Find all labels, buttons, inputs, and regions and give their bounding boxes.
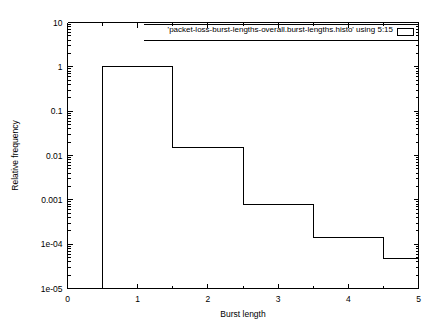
x-tick-label-4: 4 xyxy=(346,294,351,304)
x-tick-label-1: 1 xyxy=(135,294,140,304)
histogram-bar-4 xyxy=(313,238,383,289)
x-tick-label-2: 2 xyxy=(206,294,211,304)
y-axis-title: Relative frequency xyxy=(10,120,20,191)
chart-svg: 1010.10.010.0011e-041e-05012345Burst len… xyxy=(0,0,439,329)
y-tick-label-4: 0.001 xyxy=(41,195,63,205)
histogram-bar-3 xyxy=(243,204,313,288)
legend-entry-label-0: 'packet-loss-burst-lengths-overall.burst… xyxy=(168,25,394,34)
y-tick-label-6: 1e-05 xyxy=(41,284,63,294)
x-tick-label-3: 3 xyxy=(276,294,281,304)
y-tick-label-3: 0.01 xyxy=(46,151,63,161)
histogram-bar-5 xyxy=(383,258,418,288)
x-tick-label-5: 5 xyxy=(416,294,421,304)
histogram-bar-2 xyxy=(173,148,243,289)
histogram-bar-1 xyxy=(103,67,173,289)
y-tick-label-0: 10 xyxy=(53,18,63,28)
gnuplot-chart-canvas: 1010.10.010.0011e-041e-05012345Burst len… xyxy=(0,0,439,329)
histogram-series-outline xyxy=(103,67,419,289)
y-tick-label-2: 0.1 xyxy=(51,106,63,116)
x-axis-title: Burst length xyxy=(220,309,266,319)
y-tick-label-1: 1 xyxy=(58,62,63,72)
x-tick-label-0: 0 xyxy=(65,294,70,304)
legend-swatch-0 xyxy=(398,29,414,36)
y-tick-label-5: 1e-04 xyxy=(41,239,63,249)
